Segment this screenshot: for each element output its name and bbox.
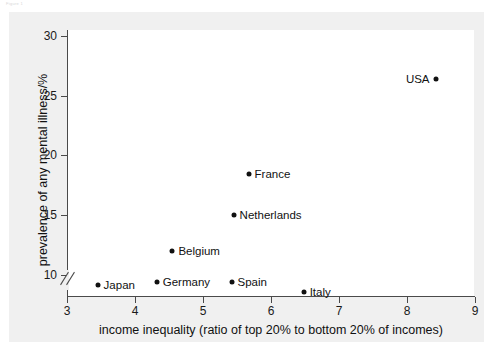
x-tick-label: 4	[132, 304, 139, 318]
x-tick-mark	[475, 297, 476, 303]
x-tick-label: 7	[336, 304, 343, 318]
x-tick-label: 8	[404, 304, 411, 318]
y-axis-line	[67, 30, 68, 297]
x-tick-label: 6	[268, 304, 275, 318]
data-point[interactable]	[95, 283, 100, 288]
data-point[interactable]	[170, 248, 175, 253]
x-tick-mark	[135, 297, 136, 303]
data-point-label: USA	[406, 73, 430, 85]
plot-area	[67, 30, 474, 296]
data-point[interactable]	[229, 279, 234, 284]
y-tick-mark	[61, 36, 67, 37]
x-tick-mark	[271, 297, 272, 303]
data-point[interactable]	[246, 172, 251, 177]
figure-caption: Figure 1	[6, 1, 23, 6]
x-tick-label: 5	[200, 304, 207, 318]
data-point-label: Netherlands	[240, 209, 302, 221]
x-tick-mark	[407, 297, 408, 303]
chart-card: 3456789 1015202530 JapanGermanyBelgiumSp…	[9, 12, 484, 342]
data-point-label: Belgium	[178, 245, 220, 257]
x-tick-mark	[339, 297, 340, 303]
y-axis-break-icon	[59, 270, 76, 290]
data-point-label: France	[255, 168, 291, 180]
x-tick-mark	[67, 297, 68, 303]
data-point[interactable]	[231, 212, 236, 217]
data-point-label: Japan	[104, 279, 135, 291]
x-axis-title: income inequality (ratio of top 20% to b…	[67, 323, 475, 337]
y-tick-mark	[61, 96, 67, 97]
y-axis-title: prevalence of any mental illness/%	[36, 37, 50, 303]
x-tick-mark	[203, 297, 204, 303]
y-tick-mark	[61, 215, 67, 216]
figure-container: Figure 1 3456789 1015202530 JapanGermany…	[0, 0, 493, 349]
data-point-label: Spain	[238, 276, 267, 288]
data-point[interactable]	[301, 290, 306, 295]
y-tick-mark	[61, 155, 67, 156]
data-point-label: Italy	[310, 286, 331, 298]
x-tick-label: 3	[64, 304, 71, 318]
data-point[interactable]	[433, 76, 438, 81]
data-point-label: Germany	[163, 276, 210, 288]
data-point[interactable]	[154, 279, 159, 284]
x-tick-label: 9	[472, 304, 479, 318]
